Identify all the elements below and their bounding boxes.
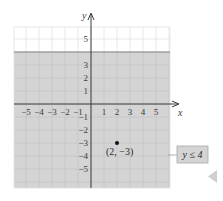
x-tick-label: −3 — [47, 107, 57, 117]
y-tick-label: −5 — [78, 164, 88, 174]
shaded-half-plane — [14, 52, 170, 188]
y-tick-label: −1 — [78, 112, 88, 122]
test-point — [115, 141, 119, 145]
y-tick-label: 5 — [84, 34, 89, 44]
y-tick-label: 2 — [84, 73, 89, 83]
x-axis-label: x — [177, 107, 183, 118]
y-tick-label: −3 — [78, 138, 88, 148]
x-tick-label: −5 — [21, 107, 31, 117]
x-tick-label: 4 — [141, 107, 146, 117]
shaded-region — [14, 52, 170, 188]
y-tick-label: 3 — [84, 60, 89, 70]
inequality-graph: xy −5−4−3−2−1123455321−1−2−3−4−5 (2, −3)… — [0, 0, 223, 201]
x-tick-label: −4 — [34, 107, 44, 117]
x-tick-label: 2 — [115, 107, 120, 117]
previous-arrow-icon[interactable] — [208, 170, 217, 183]
x-tick-label: 1 — [102, 107, 107, 117]
inequality-callout: y ≤ 4 — [168, 146, 208, 163]
x-tick-label: 5 — [154, 107, 159, 117]
y-axis-label: y — [81, 10, 87, 21]
y-tick-label: −4 — [78, 151, 88, 161]
callout-text: y ≤ 4 — [182, 149, 203, 160]
test-point-label: (2, −3) — [106, 146, 133, 158]
x-tick-label: −2 — [60, 107, 70, 117]
x-tick-label: 3 — [128, 107, 133, 117]
y-tick-label: −2 — [78, 125, 88, 135]
y-tick-label: 1 — [84, 86, 89, 96]
